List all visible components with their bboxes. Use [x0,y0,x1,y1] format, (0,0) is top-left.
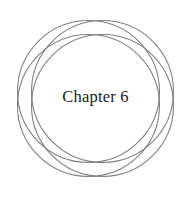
ornament-circle-2 [32,21,174,163]
chapter-opener-ornament: Chapter 6 [0,0,191,197]
ornament-circle-1 [18,21,160,163]
rosette-circle-group [18,21,174,177]
rosette-circles-icon [0,0,191,197]
ornament-circle-4 [32,35,174,177]
ornament-circle-3 [18,35,160,177]
